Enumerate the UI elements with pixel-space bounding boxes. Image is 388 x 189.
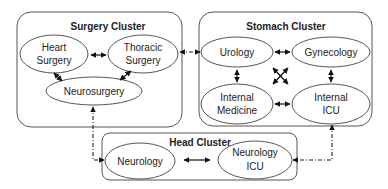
urology-label: Urology (220, 47, 254, 58)
node-neurology: Neurology (105, 143, 175, 179)
node-heart-surgery: Heart Surgery (20, 35, 88, 73)
thoracic-surgery-label-line2: Surgery (125, 55, 160, 66)
cluster-diagram: Surgery Cluster Stomach Cluster Head Clu… (0, 0, 388, 189)
internal-medicine-label-line2: Medicine (217, 105, 257, 116)
thoracic-surgery-ellipse (108, 35, 178, 73)
node-internal-medicine: Internal Medicine (201, 84, 273, 124)
stomach-cluster-title: Stomach Cluster (246, 21, 326, 32)
heart-surgery-label-line1: Heart (42, 42, 67, 53)
internal-icu-label-line2: ICU (322, 105, 339, 116)
node-urology: Urology (201, 37, 273, 67)
heart-surgery-ellipse (20, 35, 88, 73)
node-neurosurgery: Neurosurgery (46, 77, 142, 105)
head-cluster-title: Head Cluster (169, 137, 231, 148)
neurology-label: Neurology (117, 156, 163, 167)
node-gynecology: Gynecology (292, 37, 370, 67)
neurology-icu-label-line2: ICU (246, 161, 263, 172)
node-thoracic-surgery: Thoracic Surgery (108, 35, 178, 73)
internal-icu-label-line1: Internal (314, 92, 347, 103)
internal-medicine-ellipse (201, 84, 273, 124)
node-internal-icu: Internal ICU (292, 84, 370, 124)
internal-icu-ellipse (292, 84, 370, 124)
thoracic-surgery-label-line1: Thoracic (124, 42, 162, 53)
neurosurgery-label: Neurosurgery (64, 86, 125, 97)
edge-internal-icu-neurology-icu (293, 125, 332, 160)
node-neurology-icu: Neurology ICU (218, 141, 292, 179)
gynecology-label: Gynecology (305, 47, 358, 58)
heart-surgery-label-line2: Surgery (36, 55, 71, 66)
neurology-icu-label-line1: Neurology (232, 147, 278, 158)
internal-medicine-label-line1: Internal (220, 92, 253, 103)
surgery-cluster-title: Surgery Cluster (70, 21, 145, 32)
